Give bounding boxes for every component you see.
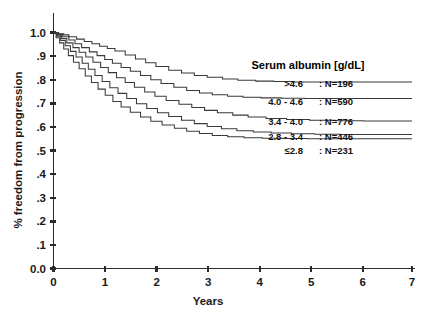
x-tick-label: 4 [256,276,263,288]
x-tick-label: 2 [153,276,159,288]
x-tick-label: 1 [102,276,109,288]
legend-item: 4.0 - 4.6 : N=590 [268,96,353,107]
legend-count-label: : N=231 [319,145,354,156]
x-tick-label: 0 [50,276,56,288]
legend-category-label: 3.4 - 4.0 [268,116,303,127]
y-tick-label: .3 [36,192,46,204]
legend-count-label: : N=776 [319,116,353,127]
y-tick-labels: 1.0 .9 .8 .7 .6 .5 .4 .3 .2 .1 0.0 [30,27,47,275]
y-tick-label: .9 [36,50,46,62]
legend-count-label: : N=590 [319,96,353,107]
x-axis-title: Years [193,295,224,307]
legend-category-label: 2.8 - 3.4 [268,131,304,142]
kaplan-meier-figure: 1.0 .9 .8 .7 .6 .5 .4 .3 .2 .1 0.0 0 1 [0,0,440,316]
legend-count-label: : N=196 [319,78,353,89]
legend-item: >4.6 : N=196 [284,78,353,89]
legend-item: ≤2.8 : N=231 [285,145,354,156]
x-tick-label: 6 [360,276,366,288]
survival-chart-canvas: 1.0 .9 .8 .7 .6 .5 .4 .3 .2 .1 0.0 0 1 [0,0,440,316]
axis-group [54,13,416,269]
y-axis-title: % freedom from progression [12,71,24,228]
y-tick-label: .7 [36,97,46,109]
legend-item: 2.8 - 3.4 : N=446 [268,131,353,142]
legend-category-label: ≤2.8 [285,145,303,156]
y-tick-label: 0.0 [30,263,46,275]
x-tick-labels: 0 1 2 3 4 5 6 7 [50,276,415,288]
y-tick-label: .1 [36,239,46,251]
x-tick-label: 3 [205,276,211,288]
y-tick-label: .8 [36,74,46,86]
y-tick-label: .6 [36,121,46,133]
legend-title: Serum albumin [g/dL] [251,59,364,71]
legend-item: 3.4 - 4.0 : N=776 [268,116,353,127]
x-tick-label: 5 [308,276,315,288]
x-tick-label: 7 [409,276,415,288]
y-tick-label: .5 [36,145,46,157]
y-tick-label: .2 [36,215,46,227]
legend: Serum albumin [g/dL] >4.6 : N=196 4.0 - … [251,59,364,156]
km-curves-group [54,33,413,139]
legend-count-label: : N=446 [319,131,353,142]
y-tick-label: .4 [36,168,46,180]
km-curve-serum-gt-4-6 [54,33,413,83]
legend-category-label: >4.6 [284,78,303,89]
y-tick-label: 1.0 [30,27,46,39]
legend-category-label: 4.0 - 4.6 [268,96,303,107]
